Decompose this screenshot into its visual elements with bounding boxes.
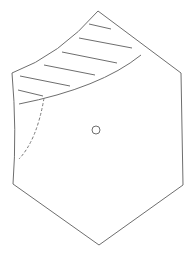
hatch-line xyxy=(89,24,111,29)
hatch-line xyxy=(62,52,117,63)
hexagon-outline xyxy=(12,11,183,245)
hatch-line xyxy=(44,65,95,75)
dashed-curve xyxy=(19,98,44,159)
hatch-line xyxy=(18,90,43,96)
hexagon-diagram xyxy=(0,0,193,258)
center-circle xyxy=(92,126,100,134)
hatch-line xyxy=(20,76,70,86)
hatch-line xyxy=(79,38,132,48)
